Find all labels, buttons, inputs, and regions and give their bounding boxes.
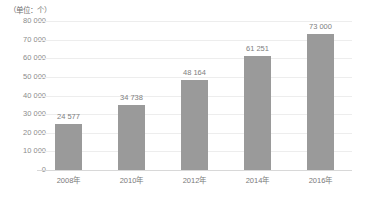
x-axis-tick-label: 2008年 [39,176,99,185]
bar [55,124,82,170]
bar-value-label: 61 251 [228,45,288,53]
gridline [37,21,352,22]
x-axis-tick-label: 2012年 [165,176,225,185]
bar [307,34,334,170]
bar-value-label: 24 577 [39,113,99,121]
bar-value-label: 48 164 [165,69,225,77]
x-axis-tick-label: 2014年 [228,176,288,185]
bar [181,80,208,170]
unit-caption: （单位：个） [9,6,51,16]
gridline [37,58,352,59]
bar-chart: （单位：个） 80 00070 00060 00050 00040 00030 … [0,0,368,197]
x-axis-tick-label: 2010年 [102,176,162,185]
bar-value-label: 73 000 [291,23,351,31]
plot-area [37,21,352,170]
gridline [37,170,352,171]
bar [244,56,271,170]
bar [118,105,145,170]
bar-value-label: 34 738 [102,94,162,102]
gridline [37,40,352,41]
x-axis-tick-label: 2016年 [291,176,351,185]
